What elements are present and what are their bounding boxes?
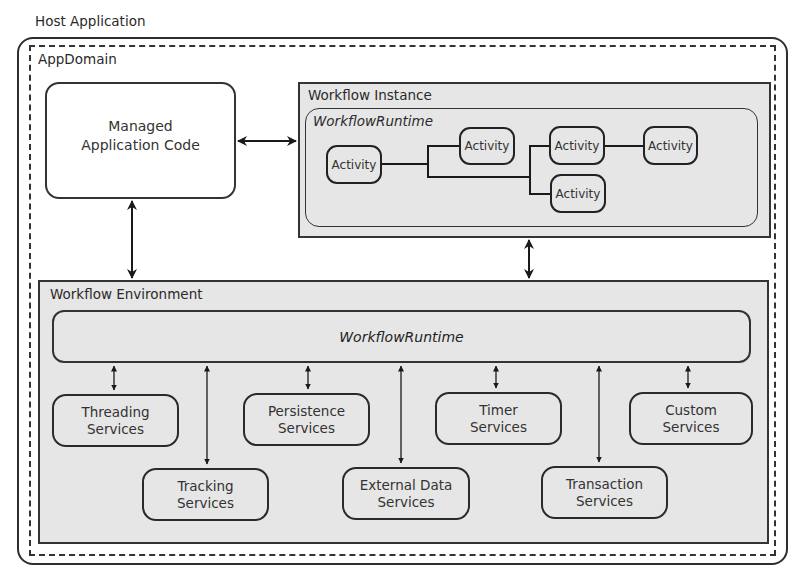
external-data-line2: Services	[378, 494, 435, 511]
persistence-line2: Services	[278, 420, 335, 437]
workflow-instance-runtime-label: WorkflowRuntime	[313, 113, 433, 129]
workflow-instance-label: Workflow Instance	[308, 87, 432, 103]
tracking-line1: Tracking	[177, 478, 233, 495]
transaction-line2: Services	[576, 493, 633, 510]
workflow-environment-runtime-bar: WorkflowRuntime	[52, 310, 751, 363]
appdomain-label: AppDomain	[38, 51, 117, 67]
managed-code-line1: Managed	[81, 117, 200, 136]
workflow-environment-runtime-label: WorkflowRuntime	[339, 329, 463, 345]
persistence-line1: Persistence	[268, 403, 345, 420]
external-data-services-box: External Data Services	[342, 467, 470, 520]
managed-application-code-box: Managed Application Code	[45, 82, 236, 199]
external-data-line1: External Data	[360, 477, 453, 494]
custom-line2: Services	[663, 419, 720, 436]
timer-line1: Timer	[479, 402, 518, 419]
tracking-line2: Services	[177, 495, 234, 512]
threading-line2: Services	[87, 421, 144, 438]
activity-node-5: Activity	[550, 174, 606, 213]
transaction-line1: Transaction	[566, 476, 643, 493]
activity-node-4: Activity	[643, 126, 698, 165]
activity-node-3: Activity	[549, 126, 605, 165]
managed-code-line2: Application Code	[81, 136, 200, 155]
custom-line1: Custom	[665, 402, 717, 419]
activity-node-2: Activity	[459, 127, 515, 165]
timer-line2: Services	[470, 419, 527, 436]
threading-line1: Threading	[81, 404, 149, 421]
threading-services-box: Threading Services	[52, 394, 179, 447]
timer-services-box: Timer Services	[435, 392, 562, 445]
workflow-environment-label: Workflow Environment	[50, 286, 202, 302]
tracking-services-box: Tracking Services	[142, 468, 269, 521]
transaction-services-box: Transaction Services	[541, 466, 668, 519]
host-application-label: Host Application	[35, 13, 145, 29]
persistence-services-box: Persistence Services	[243, 393, 370, 446]
activity-node-1: Activity	[326, 145, 382, 184]
custom-services-box: Custom Services	[629, 392, 753, 445]
